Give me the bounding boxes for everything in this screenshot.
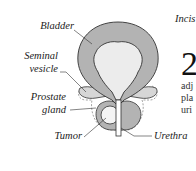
label-bladder: Bladder: [32, 20, 74, 31]
body-line-1: adj: [181, 80, 193, 91]
label-prostate-2: gland: [14, 104, 66, 115]
step-number: 2: [181, 47, 196, 81]
label-seminal-2: vesicle: [10, 63, 58, 74]
body-line-2: pla: [181, 92, 193, 103]
label-tumor: Tumor: [30, 130, 82, 141]
header-text: Incis: [175, 13, 195, 24]
urethra: [116, 100, 121, 136]
label-urethra: Urethra: [154, 130, 187, 141]
label-prostate-1: Prostate: [14, 91, 66, 102]
prostate-anatomy-diagram: [0, 0, 196, 171]
label-seminal-1: Seminal: [10, 50, 58, 61]
body-line-3: uri: [181, 104, 192, 115]
